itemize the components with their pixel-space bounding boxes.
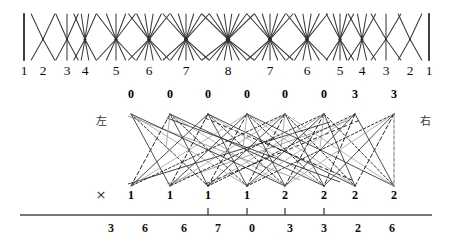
axis-number: 6 <box>181 222 187 234</box>
fan-line <box>97 39 116 60</box>
fan-line <box>410 14 422 39</box>
fan-line <box>67 39 78 60</box>
top-node-label: 3 <box>352 88 358 100</box>
top-axis-label: 2 <box>407 64 414 78</box>
fan-line <box>106 14 116 39</box>
fan-hub <box>305 38 309 42</box>
bottom-node-label: 1 <box>167 189 173 201</box>
fan-line <box>270 39 285 60</box>
fan-line <box>333 39 340 60</box>
fan-line <box>202 14 228 39</box>
fan-hub <box>147 38 151 42</box>
fan-line <box>106 39 116 60</box>
fan-line <box>116 14 135 39</box>
top-node-label: 0 <box>128 88 134 100</box>
axis-number: 2 <box>355 222 361 234</box>
fan-line <box>186 14 201 39</box>
bottom-node-label: 1 <box>244 189 250 201</box>
axis-number: 6 <box>142 222 148 234</box>
top-axis-label: 5 <box>337 64 344 78</box>
bottom-bipartite-figure: 左 右 × 0000003311112222 366703326 <box>0 88 457 247</box>
fan-line <box>67 14 78 39</box>
fan-line <box>386 14 401 39</box>
bottom-node-label: 1 <box>205 189 211 201</box>
fan-line <box>186 39 201 60</box>
top-axis-label: 3 <box>383 64 390 78</box>
top-axis-label: 5 <box>113 64 120 78</box>
bottom-node-label: 2 <box>352 189 358 201</box>
top-node-label: 0 <box>244 88 250 100</box>
fan-line <box>97 14 116 39</box>
figure-canvas: 123456787654321 左 右 × 0000003311112222 3… <box>0 0 457 247</box>
fan-line <box>116 39 126 60</box>
fan-line <box>171 39 186 60</box>
fan-hub <box>385 38 387 40</box>
top-axis-label: 1 <box>21 64 28 78</box>
top-axis-label: 7 <box>267 64 274 78</box>
top-node-label: 0 <box>282 88 288 100</box>
fan-line <box>116 14 126 39</box>
fan-line <box>333 14 340 39</box>
top-axis-label: 6 <box>146 64 153 78</box>
fan-line <box>371 14 386 39</box>
fan-line <box>43 39 55 60</box>
fan-hub <box>66 38 68 40</box>
fan-line <box>56 14 67 39</box>
top-axis-label: 7 <box>183 64 190 78</box>
fan-line <box>340 39 354 60</box>
fan-line <box>340 14 354 39</box>
axis-number: 3 <box>287 222 293 234</box>
fan-line <box>326 14 340 39</box>
fan-line <box>56 39 67 60</box>
top-node-label: 0 <box>167 88 173 100</box>
fan-hub <box>338 38 341 41</box>
fan-line <box>270 14 285 39</box>
top-node-label: 0 <box>205 88 211 100</box>
top-axis-label: 4 <box>82 64 89 78</box>
axis-number: 6 <box>389 222 395 234</box>
axis-number: 7 <box>215 222 221 234</box>
fan-line <box>31 14 43 39</box>
fan-hub <box>114 38 117 41</box>
top-node-label: 0 <box>321 88 327 100</box>
fan-line <box>386 39 401 60</box>
axis-number: 3 <box>108 222 114 234</box>
fan-line <box>398 39 410 60</box>
fan-line <box>255 39 270 60</box>
fan-hub <box>226 37 230 41</box>
top-axis-label: 1 <box>426 64 433 78</box>
bottom-node-label: 2 <box>282 189 288 201</box>
top-axis-label: 3 <box>64 64 71 78</box>
fan-line <box>340 14 347 39</box>
top-axis-label: 6 <box>304 64 311 78</box>
top-axis-label: 4 <box>359 64 366 78</box>
right-side-annotation: 右 <box>420 116 431 127</box>
fan-line <box>43 14 55 39</box>
fan-line <box>398 14 410 39</box>
top-node-label: 3 <box>391 88 397 100</box>
fan-hub <box>84 38 87 41</box>
fan-line <box>202 39 228 60</box>
fan-hub <box>361 38 364 41</box>
fan-line <box>31 39 43 60</box>
axis-number: 3 <box>321 222 327 234</box>
fan-line <box>171 14 186 39</box>
fan-line <box>410 39 422 60</box>
fan-hub <box>184 37 188 41</box>
top-fan-lattice-figure: 123456787654321 <box>0 0 457 88</box>
bottom-node-label: 1 <box>128 189 134 201</box>
fan-hub <box>268 37 272 41</box>
axis-number: 0 <box>249 222 255 234</box>
top-axis-label: 8 <box>225 64 232 78</box>
top-axis-label: 2 <box>40 64 47 78</box>
fan-line <box>371 39 386 60</box>
fan-hub <box>409 38 411 40</box>
fan-line <box>255 14 270 39</box>
multiplication-cross-mark: × <box>96 188 107 201</box>
fan-line <box>326 39 340 60</box>
fan-line <box>340 39 347 60</box>
bottom-node-label: 2 <box>321 189 327 201</box>
fan-hub <box>42 38 44 40</box>
left-side-annotation: 左 <box>96 116 107 127</box>
bottom-node-label: 2 <box>391 189 397 201</box>
